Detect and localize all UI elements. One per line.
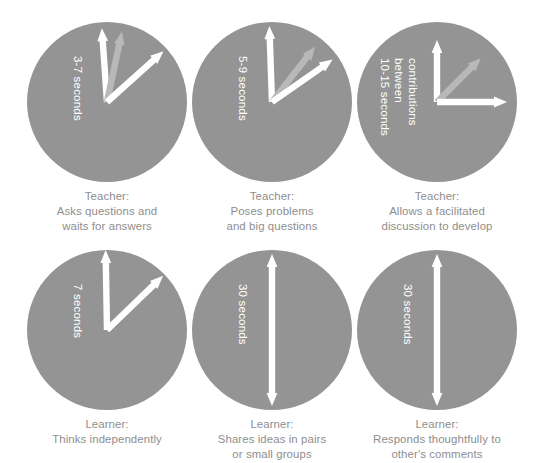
panel-learner-shares-ideas: 30 secondsLearner:Shares ideas in pairso…: [183, 250, 361, 463]
clock-circle-graphic: [27, 250, 187, 410]
panel-teacher-allows-discussion: 10-15 secondsbetweencontributionsTeacher…: [348, 22, 526, 235]
caption-teacher-poses-problems: Teacher:Poses problemsand big questions: [183, 189, 361, 235]
caption-line: waits for answers: [18, 219, 196, 234]
caption-line: Asks questions and: [18, 204, 196, 219]
caption-learner-shares-ideas: Learner:Shares ideas in pairsor small gr…: [183, 417, 361, 463]
caption-line: Shares ideas in pairs: [183, 432, 361, 447]
clock-circle-graphic: [192, 250, 352, 410]
clock-face-learner-thinks-independently: 7 seconds: [27, 250, 187, 410]
panel-teacher-poses-problems: 5-9 secondsTeacher:Poses problemsand big…: [183, 22, 361, 235]
clock-face-teacher-asks-questions: 3-7 seconds: [27, 22, 187, 182]
caption-line: Learner:: [18, 417, 196, 432]
caption-line: Teacher:: [18, 189, 196, 204]
caption-line: Allows a facilitated: [348, 204, 526, 219]
panel-teacher-asks-questions: 3-7 secondsTeacher:Asks questions andwai…: [18, 22, 196, 235]
caption-line: Learner:: [348, 417, 526, 432]
caption-line: Thinks independently: [18, 432, 196, 447]
panel-learner-responds-thoughtfully: 30 secondsLearner:Responds thoughtfully …: [348, 250, 526, 463]
clock-circle-graphic: [357, 250, 517, 410]
clock-circle-graphic: [27, 22, 187, 182]
clock-face-learner-responds-thoughtfully: 30 seconds: [357, 250, 517, 410]
caption-line: discussion to develop: [348, 219, 526, 234]
clock-face-learner-shares-ideas: 30 seconds: [192, 250, 352, 410]
caption-learner-thinks-independently: Learner:Thinks independently: [18, 417, 196, 447]
caption-line: Teacher:: [348, 189, 526, 204]
clock-face-teacher-allows-discussion: 10-15 secondsbetweencontributions: [357, 22, 517, 182]
caption-line: Teacher:: [183, 189, 361, 204]
caption-teacher-asks-questions: Teacher:Asks questions andwaits for answ…: [18, 189, 196, 235]
clock-face-teacher-poses-problems: 5-9 seconds: [192, 22, 352, 182]
caption-learner-responds-thoughtfully: Learner:Responds thoughtfully toother's …: [348, 417, 526, 463]
caption-line: or small groups: [183, 447, 361, 462]
caption-line: and big questions: [183, 219, 361, 234]
caption-line: other's comments: [348, 447, 526, 462]
caption-line: Learner:: [183, 417, 361, 432]
clock-circle-graphic: [357, 22, 517, 182]
caption-line: Poses problems: [183, 204, 361, 219]
caption-teacher-allows-discussion: Teacher:Allows a facilitateddiscussion t…: [348, 189, 526, 235]
caption-line: Responds thoughtfully to: [348, 432, 526, 447]
panel-learner-thinks-independently: 7 secondsLearner:Thinks independently: [18, 250, 196, 447]
clock-circle-graphic: [192, 22, 352, 182]
